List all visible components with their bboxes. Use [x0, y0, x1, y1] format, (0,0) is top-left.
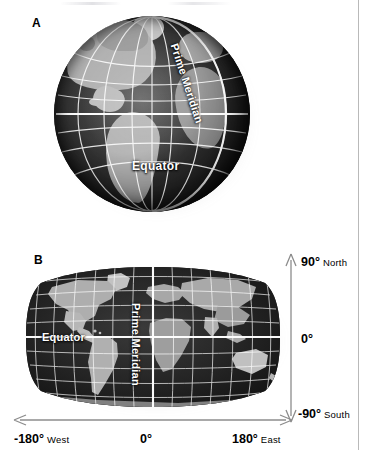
- latitude-label-south: -90°South: [298, 405, 350, 421]
- longitude-axis-arrow: [12, 413, 294, 427]
- map-prime-meridian-label: Prime Meridian: [130, 303, 142, 386]
- globe-sphere: [54, 16, 250, 212]
- latitude-north-direction: North: [323, 257, 347, 268]
- longitude-label-west: -180°West: [14, 430, 69, 446]
- latitude-label-zero: 0°: [301, 330, 313, 346]
- latitude-north-degrees: 90°: [301, 255, 320, 269]
- latitude-axis-arrow: [284, 252, 298, 424]
- globe-equator-label: Equator: [132, 159, 179, 173]
- map-equator-label: Equator: [42, 331, 85, 343]
- map-panel: Equator Prime Meridian: [18, 263, 288, 411]
- longitude-west-degrees: -180°: [14, 432, 44, 446]
- scan-artifact: [60, 2, 240, 5]
- latitude-label-north: 90°North: [301, 253, 347, 269]
- longitude-zero-degrees: 0°: [140, 432, 152, 446]
- globe-rim-shading: [54, 16, 250, 212]
- globe-panel: Equator Prime Meridian: [48, 12, 260, 226]
- figure-latitude-longitude: A: [0, 0, 369, 450]
- longitude-west-direction: West: [47, 434, 69, 445]
- page-rule: [358, 0, 359, 450]
- longitude-east-degrees: 180°: [232, 432, 258, 446]
- panel-label-a: A: [32, 16, 41, 30]
- longitude-label-east: 180°East: [232, 430, 281, 446]
- longitude-label-zero: 0°: [140, 430, 152, 446]
- longitude-east-direction: East: [261, 434, 281, 445]
- latitude-south-direction: South: [324, 409, 350, 420]
- latitude-south-degrees: -90°: [298, 407, 321, 421]
- latitude-zero-degrees: 0°: [301, 332, 313, 346]
